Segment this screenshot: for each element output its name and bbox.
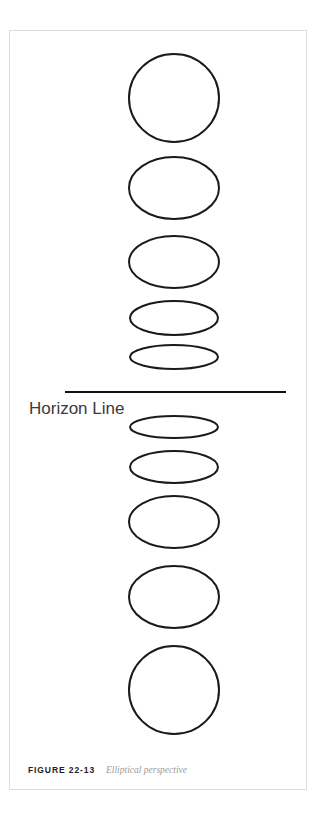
figure-caption-text: Elliptical perspective [106, 765, 187, 775]
ellipse-4 [130, 301, 218, 335]
ellipse-7 [130, 451, 218, 483]
figure-frame: Horizon Line FIGURE 22-13Elliptical pers… [9, 30, 307, 790]
figure-page: Horizon Line FIGURE 22-13Elliptical pers… [0, 0, 317, 813]
ellipse-1 [129, 54, 219, 142]
ellipse-6 [130, 416, 218, 438]
figure-caption: FIGURE 22-13Elliptical perspective [28, 759, 294, 777]
horizon-line-label: Horizon Line [29, 399, 124, 419]
figure-caption-number: FIGURE 22-13 [28, 765, 95, 775]
ellipse-5 [130, 345, 218, 369]
ellipse-8 [129, 496, 219, 548]
ellipse-9 [129, 566, 219, 628]
ellipse-10 [129, 646, 219, 734]
ellipse-3 [129, 236, 219, 288]
scan-edge-artifact [0, 0, 317, 6]
ellipse-2 [129, 157, 219, 219]
